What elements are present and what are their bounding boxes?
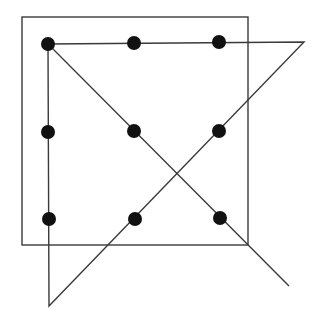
dot-1	[41, 37, 55, 51]
dot-grid	[41, 35, 227, 226]
dot-7	[42, 212, 56, 226]
dot-4	[41, 125, 55, 139]
dot-5	[127, 124, 141, 138]
dot-9	[213, 211, 227, 225]
nine-dots-diagram	[0, 0, 319, 319]
dot-3	[212, 35, 226, 49]
dot-8	[128, 212, 142, 226]
dot-6	[212, 124, 226, 138]
solution-path	[48, 42, 304, 306]
dot-2	[127, 36, 141, 50]
